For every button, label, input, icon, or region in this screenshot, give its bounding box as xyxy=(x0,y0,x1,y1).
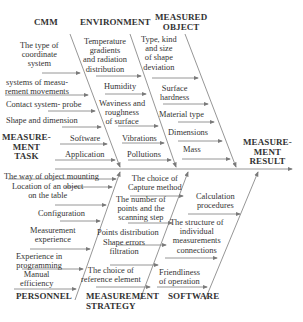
cause-programming-experience: Experience in programming xyxy=(16,252,62,270)
category-personnel: PERSONNEL xyxy=(16,292,72,302)
cause-waviness-roughness: Waviness and roughness of surface xyxy=(99,99,145,127)
category-cmm: CMM xyxy=(34,18,58,28)
cause-line: Type, kind xyxy=(141,35,177,44)
cause-points-distribution: Points distribution xyxy=(97,228,159,237)
cause-line: rement movements xyxy=(5,87,69,96)
cause-line: experience xyxy=(30,235,76,244)
category-label-line: STRATEGY xyxy=(86,302,159,312)
cause-vibrations: Vibrations xyxy=(122,134,157,143)
cause-line: roughness xyxy=(99,108,145,117)
cause-line: and radiation xyxy=(83,55,127,64)
cause-object-mounting: The way of object mounting xyxy=(4,172,99,181)
cause-line: hardness xyxy=(160,93,189,102)
cause-line: Waviness and xyxy=(99,99,145,108)
cause-line: of surface xyxy=(99,117,145,126)
cause-line: The choice of xyxy=(128,174,182,183)
cause-configuration: Configuration xyxy=(38,209,85,218)
cause-line: Manual xyxy=(20,270,53,279)
cause-measurement-movement-systems: systems of measu- rement movements xyxy=(5,78,69,96)
cause-manual-efficiency: Manual efficiency xyxy=(20,270,53,288)
cause-line: Capture method xyxy=(128,183,182,192)
cause-pollutions: Pollutions xyxy=(127,150,161,159)
category-environment: ENVIRONMENT xyxy=(80,18,151,28)
cause-line: The choice of xyxy=(81,266,141,275)
cause-line: scanning step xyxy=(116,213,166,222)
cause-line: of shape xyxy=(141,53,177,62)
cause-line: Shape errors xyxy=(103,238,145,247)
effect-measurement-result: MEASURE- MENT RESULT xyxy=(243,138,292,167)
cause-measurement-experience: Measurement experience xyxy=(30,226,76,244)
cause-shape-and-dimension: Shape and dimension xyxy=(6,116,78,125)
cause-line: deviation xyxy=(141,63,177,72)
cause-line: Measurement xyxy=(30,226,76,235)
cause-line: and size xyxy=(141,44,177,53)
category-measured-object: MEASURED OBJECT xyxy=(155,13,207,32)
cause-line: system xyxy=(20,59,59,68)
cause-coordinate-system-type: The type of coordinate system xyxy=(20,41,59,69)
cause-material-type: Material type xyxy=(159,110,204,119)
cause-line: Temperature xyxy=(83,37,127,46)
cause-humidity: Humidity xyxy=(104,82,136,91)
cause-line: The number of xyxy=(116,195,166,204)
cause-line: Friendliness xyxy=(159,268,200,277)
cause-capture-method: The choice of Capture method xyxy=(128,174,182,192)
cause-temperature-gradients: Temperature gradients and radiation dist… xyxy=(83,37,127,74)
cause-object-location: Location of an object on the table xyxy=(12,182,83,200)
cause-surface-hardness: Surface hardness xyxy=(160,84,189,102)
cause-line: The structure of xyxy=(170,218,224,227)
cause-line: gradients xyxy=(83,46,127,55)
category-measurement-task: MEASURE- MENT TASK xyxy=(2,133,51,162)
cause-calculation-procedures: Calculation procedures xyxy=(196,192,235,210)
cause-line: filtration xyxy=(103,247,145,256)
cause-dimensions: Dimensions xyxy=(168,128,208,137)
fishbone-diagram: CMM ENVIRONMENT MEASURED OBJECT MEASURE-… xyxy=(0,0,303,322)
cause-line: individual xyxy=(170,227,224,236)
category-measurement-strategy: MEASUREMENT STRATEGY xyxy=(86,292,159,311)
cause-friendliness-of-operation: Friendliness of operation xyxy=(159,268,200,286)
category-label-line: TASK xyxy=(2,152,51,162)
cause-line: measurements xyxy=(170,236,224,245)
cause-line: distribution xyxy=(83,65,127,74)
cause-mass: Mass xyxy=(183,145,201,154)
cause-software: Software xyxy=(70,134,100,143)
cause-line: Surface xyxy=(160,84,189,93)
category-software: SOFTWARE xyxy=(168,292,219,302)
category-label-line: OBJECT xyxy=(155,23,207,33)
cause-line: Location of an object xyxy=(12,182,83,191)
cause-measurement-connections: The structure of individual measurements… xyxy=(170,218,224,255)
cause-shape-errors-filtration: Shape errors filtration xyxy=(103,238,145,256)
cause-line: Calculation xyxy=(196,192,235,201)
cause-line: systems of measu- xyxy=(5,78,69,87)
cause-points-and-scanning-step: The number of points and the scanning st… xyxy=(116,195,166,223)
cause-line: reference element xyxy=(81,275,141,284)
cause-shape-deviation: Type, kind and size of shape deviation xyxy=(141,35,177,72)
effect-label-line: RESULT xyxy=(243,157,292,167)
cause-line: The type of xyxy=(20,41,59,50)
cause-line: efficiency xyxy=(20,279,53,288)
cause-line: points and the xyxy=(116,204,166,213)
cause-line: on the table xyxy=(12,191,83,200)
cause-contact-system-probe: Contact system- probe xyxy=(6,100,81,109)
cause-line: procedures xyxy=(196,201,235,210)
cause-line: coordinate xyxy=(20,50,59,59)
cause-line: connections xyxy=(170,246,224,255)
cause-line: of operation xyxy=(159,277,200,286)
cause-reference-element: The choice of reference element xyxy=(81,266,141,284)
cause-line: Experience in xyxy=(16,252,62,261)
cause-application: Application xyxy=(65,150,105,159)
